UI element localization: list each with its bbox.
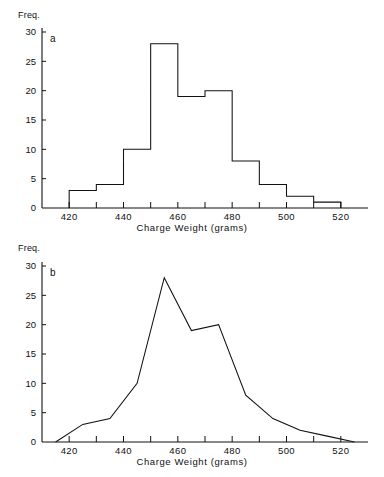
y-tick-label: 15 [25, 114, 36, 125]
y-tick-label: 25 [25, 290, 36, 301]
x-tick-label: 520 [332, 211, 349, 222]
x-tick-label: 460 [169, 445, 186, 456]
y-tick-label: 20 [25, 319, 36, 330]
panel-a-x-axis-label: Charge Weight (grams) [0, 222, 384, 233]
x-tick-label: 500 [278, 445, 295, 456]
frequency-polygon-line [56, 278, 355, 442]
panel-b-plot: 051015202530420440460480500520 [0, 237, 384, 477]
y-tick-label: 5 [31, 407, 36, 418]
y-tick-label: 0 [31, 202, 36, 213]
y-tick-label: 20 [25, 85, 36, 96]
panel-a-plot: 051015202530420440460480500520 [0, 0, 384, 240]
panel-b-x-axis-label: Charge Weight (grams) [0, 456, 384, 467]
y-tick-label: 30 [25, 26, 36, 37]
panel-a-histogram: Freq. a 051015202530420440460480500520 C… [0, 0, 384, 240]
y-tick-label: 25 [25, 56, 36, 67]
panel-b-frequency-polygon: Freq. b 051015202530420440460480500520 C… [0, 237, 384, 477]
histogram-outline [69, 44, 341, 208]
y-tick-label: 0 [31, 436, 36, 447]
x-tick-label: 480 [224, 445, 241, 456]
x-tick-label: 420 [61, 445, 78, 456]
x-tick-label: 480 [224, 211, 241, 222]
x-tick-label: 520 [332, 445, 349, 456]
y-tick-label: 10 [25, 144, 36, 155]
x-tick-label: 460 [169, 211, 186, 222]
x-tick-label: 440 [115, 445, 132, 456]
x-tick-label: 500 [278, 211, 295, 222]
y-tick-label: 30 [25, 260, 36, 271]
x-tick-label: 420 [61, 211, 78, 222]
y-tick-label: 5 [31, 173, 36, 184]
y-tick-label: 15 [25, 348, 36, 359]
x-tick-label: 440 [115, 211, 132, 222]
figure-container: Freq. a 051015202530420440460480500520 C… [0, 0, 384, 477]
y-tick-label: 10 [25, 378, 36, 389]
